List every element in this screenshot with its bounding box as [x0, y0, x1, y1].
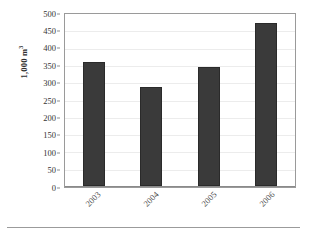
y-axis-tick-mark — [57, 187, 60, 188]
y-axis-tick-label: 200 — [43, 114, 56, 123]
bar-2004[interactable] — [140, 87, 162, 186]
x-axis-tick-label-2006: 2006 — [257, 189, 276, 208]
x-axis-tick-label-2005: 2005 — [199, 189, 218, 208]
y-axis-tick-mark — [57, 100, 60, 101]
x-axis-baseline — [65, 186, 295, 187]
y-axis-tick-mark — [57, 48, 60, 49]
plot-area — [64, 13, 296, 188]
y-axis-tick-mark — [57, 135, 60, 136]
y-axis-tick-mark — [57, 13, 60, 14]
y-axis-tick-mark — [57, 65, 60, 66]
y-axis-title-text: 1,000 m — [19, 49, 29, 79]
x-axis-slot: 2005 — [180, 188, 238, 222]
y-axis-tick-label: 250 — [43, 96, 56, 105]
y-axis-tick-label: 100 — [43, 148, 56, 157]
x-axis-slot: 2003 — [64, 188, 122, 222]
y-axis-title-exponent: 3 — [18, 46, 24, 49]
x-axis-slot: 2006 — [238, 188, 296, 222]
y-axis-tick-labels: 500450400350300250200150100500 — [34, 13, 60, 188]
y-axis-tick-mark — [57, 30, 60, 31]
y-axis-tick-mark — [57, 170, 60, 171]
bottom-divider — [7, 227, 300, 228]
bar-2003[interactable] — [83, 62, 105, 186]
bar-slot — [65, 14, 123, 186]
bar-2006[interactable] — [255, 23, 277, 186]
y-axis-tick-mark — [57, 152, 60, 153]
y-axis-tick-label: 50 — [48, 166, 57, 175]
x-axis-tick-label-2003: 2003 — [83, 189, 102, 208]
y-axis-tick-label: 400 — [43, 44, 56, 53]
x-axis-tick-label-2004: 2004 — [141, 189, 160, 208]
bar-2005[interactable] — [198, 67, 220, 186]
y-axis-tick-mark — [57, 117, 60, 118]
y-axis-tick-label: 150 — [43, 131, 56, 140]
x-axis-slot: 2004 — [122, 188, 180, 222]
y-axis-tick-label: 0 — [52, 183, 56, 192]
bar-series — [65, 14, 295, 186]
bar-chart-figure: 1,000 m3 500450400350300250200150100500 … — [0, 0, 310, 236]
x-axis-tick-labels: 2003200420052006 — [64, 188, 296, 222]
bar-slot — [238, 14, 296, 186]
y-axis-tick-label: 300 — [43, 79, 56, 88]
y-axis-tick-mark — [57, 83, 60, 84]
y-axis-tick-label: 450 — [43, 27, 56, 36]
y-axis-title: 1,000 m3 — [18, 22, 29, 102]
y-axis-tick-label: 350 — [43, 61, 56, 70]
y-axis-tick-label: 500 — [43, 9, 56, 18]
bar-slot — [180, 14, 238, 186]
bar-slot — [123, 14, 181, 186]
